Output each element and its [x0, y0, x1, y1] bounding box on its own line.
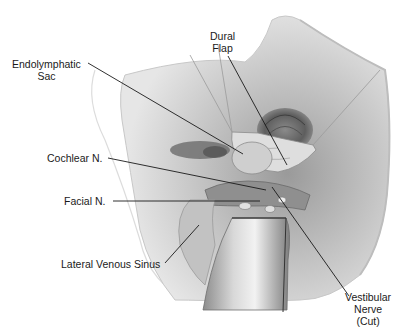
label-facial-n: Facial N. [64, 195, 105, 207]
label-dural-flap: Dural Flap [210, 30, 235, 54]
label-line: Lateral Venous Sinus [61, 258, 160, 270]
label-cochlear-n: Cochlear N. [47, 152, 102, 164]
label-line: Facial N. [64, 195, 105, 207]
endolymphatic-sac-shape [232, 142, 272, 174]
anatomical-illustration [0, 0, 408, 334]
label-line: Nerve [345, 303, 391, 315]
label-endolymphatic-sac: Endolymphatic Sac [12, 58, 81, 82]
label-lateral-venous-sinus: Lateral Venous Sinus [61, 258, 160, 270]
label-line: Sac [12, 70, 81, 82]
label-line: Flap [210, 42, 235, 54]
label-line: Dural [210, 30, 235, 42]
label-line: Cochlear N. [47, 152, 102, 164]
label-line: Endolymphatic [12, 58, 81, 70]
label-line: (Cut) [345, 315, 391, 327]
label-vestibular-nerve: Vestibular Nerve (Cut) [345, 291, 391, 327]
label-line: Vestibular [345, 291, 391, 303]
